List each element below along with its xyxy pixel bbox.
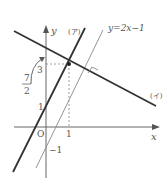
curved-arrow-head-icon [39, 57, 45, 62]
x-axis-label: x [151, 131, 157, 142]
line-b-label: y=2x−1 [107, 23, 145, 33]
tick-x-one: 1 [66, 129, 72, 139]
intersection-point [67, 62, 71, 66]
origin-label: O [37, 129, 44, 139]
coordinate-diagram: y x O 3 1 1 −1 7 2 (ア) y=2x−1 (イ) [0, 0, 166, 180]
y-axis-label: y [50, 25, 57, 36]
tick-y-minus-one: −1 [49, 145, 62, 155]
x-axis-arrow-icon [152, 124, 160, 130]
tick-y-three: 3 [37, 65, 43, 75]
tick-y-one: 1 [38, 102, 44, 112]
line-a-label: (ア) [68, 28, 81, 36]
fraction-numerator: 7 [24, 73, 30, 83]
fraction-denominator: 2 [24, 86, 30, 96]
fraction-seven-halves: 7 2 [22, 73, 31, 96]
y-axis-arrow-icon [43, 25, 49, 33]
line-c [14, 31, 156, 106]
line-c-label: (イ) [150, 92, 163, 100]
